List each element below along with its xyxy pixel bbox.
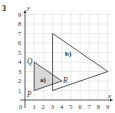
- x-tick-label: 4: [60, 103, 64, 110]
- x-tick-label: 8: [97, 103, 100, 110]
- origin-label: 0: [19, 103, 22, 110]
- triangle-a-label: a): [40, 76, 47, 84]
- x-axis-label: x: [107, 92, 112, 100]
- x-tick-label: 2: [42, 103, 45, 110]
- y-axis-label: y: [26, 4, 31, 12]
- y-tick-label: 1: [18, 87, 21, 94]
- x-tick-label: 6: [78, 103, 82, 110]
- y-tick-label: 8: [18, 20, 21, 27]
- x-tick-label: 7: [88, 103, 92, 110]
- x-tick-label: 5: [69, 103, 72, 110]
- coordinate-diagram: 3 x y 0 123456789 123456789 a) b) Q P R: [0, 0, 115, 113]
- y-tick-label: 5: [18, 49, 21, 56]
- y-tick-label: 9: [18, 11, 21, 18]
- y-tick-label: 4: [18, 58, 22, 65]
- x-tick-label: 9: [106, 103, 109, 110]
- triangle-a: [34, 62, 62, 91]
- point-p-label: P: [26, 90, 32, 99]
- y-tick-label: 2: [18, 77, 21, 84]
- point-r-label: R: [62, 76, 68, 85]
- y-tick-label: 7: [18, 30, 22, 37]
- y-tick-label: 6: [18, 39, 22, 46]
- triangle-b-label: b): [65, 50, 72, 58]
- y-tick-label: 3: [18, 68, 21, 75]
- x-tick-labels: 123456789: [32, 103, 109, 110]
- question-number: 3: [2, 4, 6, 13]
- x-axis: [20, 99, 113, 102]
- x-tick-label: 3: [51, 103, 54, 110]
- x-tick-label: 1: [32, 103, 35, 110]
- point-q-label: Q: [27, 57, 33, 66]
- y-tick-labels: 123456789: [18, 11, 22, 94]
